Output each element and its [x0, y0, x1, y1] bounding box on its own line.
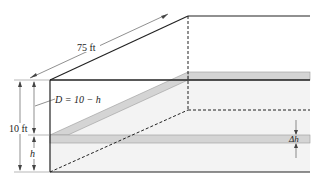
- length-arrow-end-icon: [161, 14, 168, 19]
- dh-label: Δh: [288, 134, 299, 144]
- D-label: D = 10 − h: [54, 94, 101, 105]
- length-arrow-start-icon: [30, 73, 37, 78]
- depth-arrow-down-icon: [18, 165, 22, 171]
- length-label: 75 ft: [77, 42, 96, 53]
- D-arrow-up-icon: [32, 81, 36, 87]
- depth-arrow-up-icon: [18, 81, 22, 87]
- h-arrow-up-icon: [32, 136, 36, 142]
- front-slice-band: [50, 135, 310, 143]
- depth-label: 10 ft: [9, 123, 28, 134]
- back-slice-band: [188, 72, 310, 80]
- h-arrow-down-icon: [32, 165, 36, 171]
- pool-diagram: 75 ft 10 ft D = 10 − h h Δh: [0, 0, 320, 180]
- h-label: h: [30, 148, 35, 159]
